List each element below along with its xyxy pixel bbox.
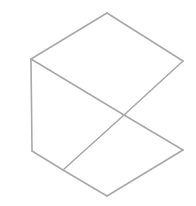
edge-upper_left-lower_left xyxy=(31,59,32,151)
edge-upper_right-center xyxy=(124,61,183,115)
edge-bottom-lower_right xyxy=(107,150,183,196)
edge-center-junction xyxy=(63,115,124,170)
edge-junction-bottom xyxy=(63,170,107,196)
edge-top-upper_left xyxy=(31,13,107,59)
edge-center-lower_right xyxy=(124,115,183,150)
cube-outline-icon xyxy=(0,0,196,206)
edge-top-upper_right xyxy=(107,13,183,61)
edge-upper_left-center xyxy=(31,59,124,115)
cube-outline-figure xyxy=(0,0,196,206)
edge-lower_left-junction xyxy=(32,151,63,170)
